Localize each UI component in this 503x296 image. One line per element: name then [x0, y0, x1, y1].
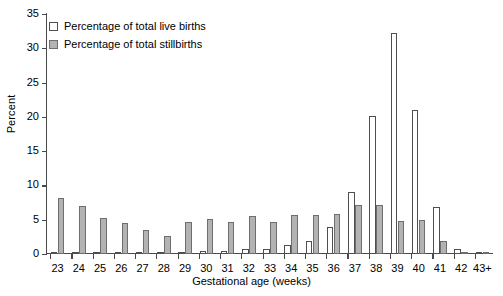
bar-live-births: [157, 252, 164, 254]
x-tick-mark: [305, 254, 306, 259]
bar-live-births: [476, 252, 483, 254]
legend-label: Percentage of total stillbirths: [64, 38, 202, 50]
bar-stillbirths: [355, 205, 362, 254]
x-tick-label: 32: [243, 262, 255, 274]
y-tick-label: 25: [27, 76, 39, 88]
x-tick-mark: [263, 254, 264, 259]
x-tick-label: 40: [413, 262, 425, 274]
y-tick-label: 30: [27, 41, 39, 53]
bar-stillbirths: [164, 236, 171, 254]
bar-live-births: [412, 110, 419, 254]
y-tick-label: 5: [33, 213, 39, 225]
y-tick-mark: [42, 220, 47, 221]
bar-live-births: [284, 245, 291, 254]
bar-stillbirths: [100, 218, 107, 254]
x-tick-label: 42: [455, 262, 467, 274]
x-tick-label: 34: [285, 262, 297, 274]
x-tick-label: 30: [200, 262, 212, 274]
x-tick-mark: [178, 254, 179, 259]
bar-stillbirths: [291, 215, 298, 254]
bar-stillbirths: [270, 222, 277, 254]
legend-swatch-still: [49, 40, 58, 49]
legend-label: Percentage of total live births: [64, 20, 206, 32]
bar-live-births: [369, 116, 376, 255]
x-tick-mark: [284, 254, 285, 259]
x-tick-mark: [432, 254, 433, 259]
y-tick-mark: [42, 48, 47, 49]
x-tick-label: 27: [136, 262, 148, 274]
x-tick-label: 43+: [473, 262, 492, 274]
bar-stillbirths: [334, 214, 341, 254]
x-tick-mark: [326, 254, 327, 259]
x-tick-label: 33: [264, 262, 276, 274]
bar-live-births: [242, 249, 249, 254]
x-axis-title: Gestational age (weeks): [0, 275, 503, 287]
x-tick-mark: [347, 254, 348, 259]
bar-live-births: [115, 252, 122, 254]
bar-stillbirths: [122, 223, 129, 254]
bar-stillbirths: [376, 205, 383, 254]
x-tick-mark: [71, 254, 72, 259]
bar-stillbirths: [398, 221, 405, 254]
y-tick-label: 0: [33, 247, 39, 259]
x-tick-mark: [135, 254, 136, 259]
legend-item: Percentage of total stillbirths: [49, 36, 206, 52]
x-tick-label: 29: [179, 262, 191, 274]
bar-live-births: [51, 252, 58, 254]
x-tick-mark: [475, 254, 476, 259]
x-tick-label: 31: [221, 262, 233, 274]
bar-stillbirths: [440, 241, 447, 254]
x-tick-label: 41: [434, 262, 446, 274]
bar-stillbirths: [207, 219, 214, 254]
y-tick-mark: [42, 117, 47, 118]
bar-stillbirths: [249, 216, 256, 254]
x-tick-label: 28: [158, 262, 170, 274]
x-tick-mark: [114, 254, 115, 259]
bar-live-births: [454, 249, 461, 254]
bar-stillbirths: [143, 230, 150, 254]
x-tick-label: 25: [94, 262, 106, 274]
bar-live-births: [306, 241, 313, 254]
x-tick-mark: [93, 254, 94, 259]
y-tick-mark: [42, 254, 47, 255]
y-tick-mark: [42, 14, 47, 15]
bar-live-births: [200, 251, 207, 254]
x-tick-mark: [390, 254, 391, 259]
x-tick-label: 35: [306, 262, 318, 274]
y-tick-label: 35: [27, 7, 39, 19]
x-tick-mark: [454, 254, 455, 259]
legend-item: Percentage of total live births: [49, 18, 206, 34]
bar-stillbirths: [228, 222, 235, 254]
bar-live-births: [391, 33, 398, 254]
x-tick-label: 26: [115, 262, 127, 274]
y-tick-label: 20: [27, 110, 39, 122]
x-tick-label: 38: [370, 262, 382, 274]
bar-live-births: [433, 207, 440, 254]
y-tick-label: 15: [27, 144, 39, 156]
bar-live-births: [263, 249, 270, 254]
bar-live-births: [178, 252, 185, 254]
x-tick-mark: [220, 254, 221, 259]
x-tick-mark: [156, 254, 157, 259]
y-tick-label: 10: [27, 178, 39, 190]
x-tick-label: 24: [73, 262, 85, 274]
x-tick-mark: [199, 254, 200, 259]
y-tick-mark: [42, 83, 47, 84]
x-tick-mark: [411, 254, 412, 259]
bar-live-births: [93, 252, 100, 254]
bar-stillbirths: [461, 252, 468, 254]
bar-live-births: [72, 252, 79, 254]
bar-stillbirths: [313, 215, 320, 254]
bar-stillbirths: [483, 252, 490, 254]
y-tick-mark: [42, 151, 47, 152]
y-axis-title: Percent: [5, 79, 17, 149]
x-tick-mark: [50, 254, 51, 259]
x-tick-mark: [369, 254, 370, 259]
bar-stillbirths: [419, 220, 426, 254]
legend-swatch-live: [49, 22, 58, 31]
bar-stillbirths: [79, 206, 86, 254]
bar-live-births: [136, 252, 143, 254]
bar-stillbirths: [185, 222, 192, 254]
bar-live-births: [221, 251, 228, 254]
x-tick-label: 39: [391, 262, 403, 274]
